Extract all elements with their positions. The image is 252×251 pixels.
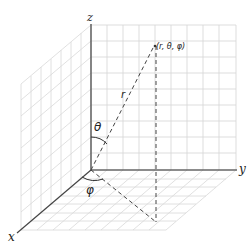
z-axis-label: z bbox=[86, 11, 93, 24]
radius-label: r bbox=[121, 89, 126, 100]
phi-label: φ bbox=[86, 183, 94, 197]
radius-line bbox=[91, 46, 154, 170]
theta-label: θ bbox=[94, 120, 102, 134]
x-axis bbox=[17, 170, 91, 233]
y-axis-label: y bbox=[238, 162, 246, 176]
point-label: (r, θ, φ) bbox=[156, 42, 185, 51]
xy-plane-grid bbox=[21, 170, 236, 230]
spherical-coordinates-diagram: z y x (r, θ, φ) r θ φ bbox=[0, 0, 252, 251]
x-axis-label: x bbox=[8, 230, 15, 244]
